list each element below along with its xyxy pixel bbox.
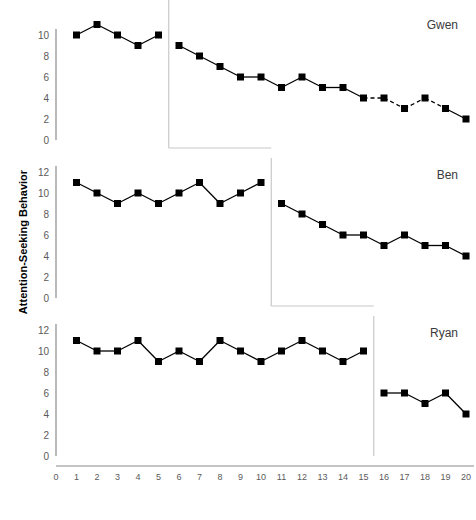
y-tick-label: 8 [43, 51, 49, 62]
data-point-marker [278, 200, 285, 207]
data-point-marker [340, 232, 347, 239]
data-point-marker [73, 179, 80, 186]
y-tick-label: 6 [43, 388, 49, 399]
data-point-marker [360, 348, 367, 355]
data-point-marker [237, 348, 244, 355]
x-tick-label: 20 [461, 472, 471, 482]
y-tick-label: 10 [38, 30, 50, 41]
y-tick-label: 10 [38, 188, 50, 199]
data-point-marker [217, 200, 224, 207]
y-tick-label: 2 [43, 272, 49, 283]
data-point-marker [442, 105, 449, 112]
panel-plot-ben: 024681012 [24, 158, 476, 308]
x-tick-label: 10 [256, 472, 266, 482]
x-tick-label: 0 [53, 472, 58, 482]
panel-ryan: 024681012 Ryan [24, 316, 476, 466]
data-point-marker [237, 74, 244, 81]
x-tick-label: 16 [379, 472, 389, 482]
data-point-marker [299, 211, 306, 218]
y-tick-label: 6 [43, 230, 49, 241]
data-point-marker [155, 32, 162, 39]
panel-gwen-title: Gwen [427, 18, 458, 32]
x-tick-label: 17 [399, 472, 409, 482]
x-tick-label: 14 [338, 472, 348, 482]
data-point-marker [422, 400, 429, 407]
x-tick-label: 6 [176, 472, 181, 482]
y-tick-label: 8 [43, 209, 49, 220]
data-point-marker [237, 190, 244, 197]
data-point-marker [196, 179, 203, 186]
y-tick-label: 6 [43, 72, 49, 83]
data-point-marker [299, 74, 306, 81]
x-tick-label: 9 [238, 472, 243, 482]
y-tick-label: 0 [43, 451, 49, 462]
data-point-marker [94, 21, 101, 28]
data-point-marker [135, 42, 142, 49]
y-tick-label: 4 [43, 409, 49, 420]
data-point-marker [217, 63, 224, 70]
y-tick-label: 8 [43, 367, 49, 378]
x-axis-plot: 01234567891011121314151617181920 [24, 464, 476, 504]
y-tick-label: 12 [38, 167, 50, 178]
data-point-marker [258, 179, 265, 186]
y-tick-label: 10 [38, 346, 50, 357]
data-point-marker [381, 390, 388, 397]
data-point-marker [422, 242, 429, 249]
y-tick-label: 4 [43, 93, 49, 104]
y-tick-label: 4 [43, 251, 49, 262]
data-point-marker [176, 42, 183, 49]
panel-ben: 024681012 Ben [24, 158, 476, 308]
data-point-marker [114, 200, 121, 207]
data-point-marker [401, 390, 408, 397]
data-point-marker [299, 337, 306, 344]
x-tick-label: 4 [135, 472, 140, 482]
x-tick-label: 18 [420, 472, 430, 482]
data-point-marker [381, 242, 388, 249]
panel-ben-title: Ben [437, 168, 458, 182]
data-point-marker [278, 84, 285, 91]
data-point-marker [463, 116, 470, 123]
panel-gwen: 0246810 Gwen [24, 0, 476, 150]
data-point-marker [217, 337, 224, 344]
data-point-marker [340, 358, 347, 365]
data-point-marker [360, 232, 367, 239]
x-tick-label: 1 [74, 472, 79, 482]
data-point-marker [155, 358, 162, 365]
y-tick-label: 0 [43, 293, 49, 304]
data-point-marker [401, 232, 408, 239]
data-point-marker [196, 53, 203, 60]
data-point-marker [73, 337, 80, 344]
data-point-marker [319, 348, 326, 355]
data-point-marker [401, 105, 408, 112]
x-tick-label: 19 [440, 472, 450, 482]
data-point-marker [176, 348, 183, 355]
data-point-marker [442, 242, 449, 249]
x-tick-label: 13 [317, 472, 327, 482]
panel-plot-gwen: 0246810 [24, 0, 476, 150]
x-axis: 01234567891011121314151617181920 [24, 464, 476, 508]
data-point-marker [135, 337, 142, 344]
multiple-baseline-chart: Attention-Seeking Behavior 0246810 Gwen … [0, 0, 476, 520]
x-tick-label: 5 [156, 472, 161, 482]
data-point-marker [360, 95, 367, 102]
data-point-marker [422, 95, 429, 102]
y-tick-label: 2 [43, 114, 49, 125]
data-point-marker [155, 200, 162, 207]
x-tick-label: 8 [217, 472, 222, 482]
panel-ryan-title: Ryan [430, 326, 458, 340]
data-point-marker [94, 190, 101, 197]
data-point-marker [176, 190, 183, 197]
y-axis-label: Attention-Seeking Behavior [0, 0, 24, 520]
x-tick-label: 2 [94, 472, 99, 482]
data-point-marker [258, 358, 265, 365]
y-tick-label: 0 [43, 135, 49, 146]
x-tick-label: 7 [197, 472, 202, 482]
data-point-marker [463, 253, 470, 260]
data-point-marker [442, 390, 449, 397]
x-tick-label: 11 [277, 472, 286, 482]
panel-plot-ryan: 024681012 [24, 316, 476, 466]
y-tick-label: 12 [38, 325, 50, 336]
data-point-marker [114, 348, 121, 355]
x-tick-label: 12 [297, 472, 307, 482]
data-point-marker [278, 348, 285, 355]
